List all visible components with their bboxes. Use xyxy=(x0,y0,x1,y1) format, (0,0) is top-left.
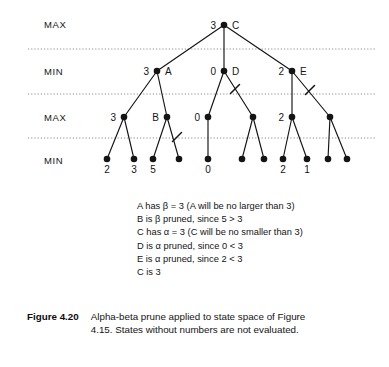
tree-edge-C-A xyxy=(157,25,224,71)
tree-leaf-l6[interactable] xyxy=(239,156,246,163)
tree-edge-D-m3 xyxy=(208,71,224,117)
node-value-m3: 0 xyxy=(194,112,200,123)
tree-node-A[interactable] xyxy=(154,68,161,75)
leaf-value-l2: 3 xyxy=(131,164,137,175)
node-value-m5: 2 xyxy=(278,112,284,123)
level-label-3-min: MIN xyxy=(44,155,63,166)
tree-edge-m1-l2 xyxy=(124,117,134,159)
node-label-B: B xyxy=(152,112,159,123)
tree-leaf-l11[interactable] xyxy=(344,156,351,163)
level-label-1-min: MIN xyxy=(44,66,63,77)
tree-node-m5[interactable] xyxy=(289,114,296,121)
tree-leaf-group: 235021 xyxy=(104,156,351,175)
node-label-C: C xyxy=(232,20,239,31)
tree-leaf-l1[interactable] xyxy=(104,156,111,163)
figure-caption: Figure 4.20 Alpha-beta prune applied to … xyxy=(27,310,377,337)
leaf-value-l9: 1 xyxy=(304,164,310,175)
tree-edge-A-B xyxy=(157,71,167,117)
annotation-line-5: C is 3 xyxy=(137,266,387,279)
figure-caption-text: Alpha-beta prune applied to state space … xyxy=(91,310,306,337)
tree-leaf-l10[interactable] xyxy=(325,156,332,163)
annotation-line-0: A has β = 3 (A will be no larger than 3) xyxy=(137,200,387,213)
tree-leaf-l3[interactable] xyxy=(150,156,157,163)
tree-node-group: 3C3A0D2E3B02 xyxy=(110,20,333,123)
tree-leaf-l9[interactable] xyxy=(304,156,311,163)
leaf-value-l3: 5 xyxy=(150,164,156,175)
tree-leaf-l2[interactable] xyxy=(131,156,138,163)
node-value-C: 3 xyxy=(210,20,216,31)
tree-leaf-l5[interactable] xyxy=(205,156,212,163)
tree-node-m4[interactable] xyxy=(250,114,257,121)
annotation-line-2: C has α = 3 (C will be no smaller than 3… xyxy=(137,226,387,239)
node-label-E: E xyxy=(300,66,307,77)
tree-leaf-l4[interactable] xyxy=(176,156,183,163)
tree-edge-group xyxy=(107,25,347,159)
tree-edge-A-m1 xyxy=(124,71,157,117)
annotation-line-1: B is β pruned, since 5 > 3 xyxy=(137,213,387,226)
node-label-A: A xyxy=(165,66,172,77)
tree-edge-C-E xyxy=(224,25,292,71)
tree-edge-m4-l6 xyxy=(242,117,253,159)
level-label-0-max: MAX xyxy=(44,19,66,30)
tree-node-m6[interactable] xyxy=(327,114,334,121)
tree-node-m1[interactable] xyxy=(121,114,128,121)
tree-edge-B-l3 xyxy=(153,117,167,159)
annotation-list: A has β = 3 (A will be no larger than 3)… xyxy=(137,200,387,279)
figure-container: 3C3A0D2E3B02 235021 MAXMINMAXMIN A has β… xyxy=(0,0,389,367)
annotation-line-3: D is α pruned, since 0 < 3 xyxy=(137,240,387,253)
tree-leaf-l8[interactable] xyxy=(280,156,287,163)
figure-number: Figure 4.20 xyxy=(27,310,91,323)
leaf-value-l1: 2 xyxy=(104,164,110,175)
tree-edge-D-m4 xyxy=(224,71,253,117)
tree-node-C[interactable] xyxy=(221,22,228,29)
node-label-D: D xyxy=(232,66,239,77)
node-value-A: 3 xyxy=(143,66,149,77)
leaf-value-l5: 0 xyxy=(205,164,211,175)
tree-node-B[interactable] xyxy=(164,114,171,121)
annotation-line-4: E is α pruned, since 2 < 3 xyxy=(137,253,387,266)
prune-mark-2 xyxy=(173,133,182,142)
node-value-D: 0 xyxy=(210,66,216,77)
prune-mark-0 xyxy=(231,85,240,94)
level-label-2-max: MAX xyxy=(44,112,66,123)
tree-leaf-l7[interactable] xyxy=(261,156,268,163)
tree-node-D[interactable] xyxy=(221,68,228,75)
node-value-E: 2 xyxy=(278,66,284,77)
leaf-value-l8: 2 xyxy=(280,164,286,175)
tree-node-m3[interactable] xyxy=(205,114,212,121)
node-value-m1: 3 xyxy=(110,112,116,123)
level-separator-group xyxy=(28,49,375,138)
tree-node-E[interactable] xyxy=(289,68,296,75)
